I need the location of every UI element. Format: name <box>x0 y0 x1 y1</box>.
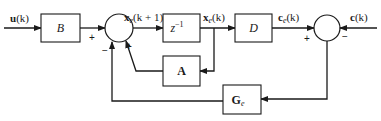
svg-text:xe(k): xe(k) <box>203 11 225 25</box>
svg-text:u(k): u(k) <box>10 12 29 25</box>
sum2-plus: + <box>304 33 310 44</box>
summing-junction-2 <box>314 15 340 41</box>
block-delay: z−1 <box>163 14 200 42</box>
svg-text:xe(k + 1): xe(k + 1) <box>124 11 163 25</box>
input-signal: u(k) <box>4 12 41 28</box>
ge-g: G <box>232 93 241 107</box>
svg-text:ce(k): ce(k) <box>278 11 300 25</box>
c-arg: (k) <box>355 11 368 24</box>
block-d: D <box>235 14 272 42</box>
block-b: B <box>41 14 80 42</box>
ce-arg: (k) <box>286 11 299 24</box>
svg-text:c(k): c(k) <box>350 11 368 24</box>
sum2-to-ge-line <box>261 41 327 99</box>
sum1-minus: − <box>102 45 108 56</box>
block-a: A <box>163 56 200 86</box>
block-d-label: D <box>248 21 258 35</box>
sum1-plus-left: + <box>89 32 95 43</box>
delay-exp: −1 <box>175 20 184 29</box>
u-arg: (k) <box>16 12 29 25</box>
xnext-arg: (k + 1) <box>133 11 163 24</box>
sum2-minus: − <box>342 31 348 42</box>
block-diagram: u(k) B + + − xe(k + 1) z−1 xe(k) A D <box>0 0 381 121</box>
state-to-a-line <box>200 28 214 71</box>
ge-sub: e <box>241 99 245 108</box>
block-ge: Ge <box>223 85 261 114</box>
block-b-label: B <box>57 21 65 35</box>
x-arg: (k) <box>212 11 225 24</box>
block-a-label: A <box>177 64 186 78</box>
